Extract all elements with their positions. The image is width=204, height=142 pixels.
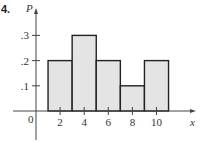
x-tick-label: 10 [151,116,163,128]
x-axis-arrow-icon [190,109,196,113]
y-axis-label: P [25,2,33,14]
problem-number: 4. [1,3,10,15]
x-tick-label: 2 [57,116,63,128]
y-tick-label: .3 [21,29,30,41]
bar-5 [144,61,168,111]
histogram-chart: 4. P x 0 .1.2.3 246810 [0,0,204,142]
y-ticks: .1.2.3 [21,29,40,91]
y-axis-arrow-icon [34,8,38,14]
origin-label: 0 [28,113,34,125]
x-tick-label: 6 [106,116,112,128]
x-tick-label: 8 [130,116,136,128]
bar-2 [72,35,96,111]
x-axis-label: x [189,116,195,128]
y-tick-label: .2 [21,55,29,67]
x-tick-label: 4 [81,116,87,128]
y-tick-label: .1 [21,80,29,92]
bar-1 [48,61,72,111]
bars [48,35,169,111]
bar-3 [96,61,120,111]
